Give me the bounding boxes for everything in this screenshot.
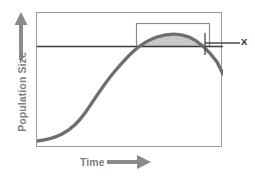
y-axis-label: Population Size — [16, 37, 28, 147]
plot-graphic — [37, 13, 223, 148]
x-axis: Time — [80, 152, 170, 172]
callout-x: X — [204, 30, 255, 58]
callout-leader-line-icon — [204, 30, 244, 58]
y-axis: Population Size — [0, 0, 36, 155]
population-overshoot-figure: Population Size X Time — [0, 0, 255, 177]
x-axis-label: Time — [80, 156, 105, 168]
right-arrow-icon — [107, 155, 151, 169]
population-growth-curve — [37, 34, 223, 141]
plot-area — [36, 12, 222, 147]
callout-label: X — [241, 36, 247, 47]
